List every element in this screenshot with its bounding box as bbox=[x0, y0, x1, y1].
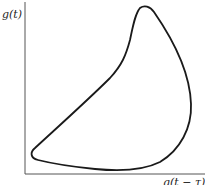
phase-plot bbox=[0, 0, 205, 185]
attractor-loop bbox=[32, 6, 191, 170]
